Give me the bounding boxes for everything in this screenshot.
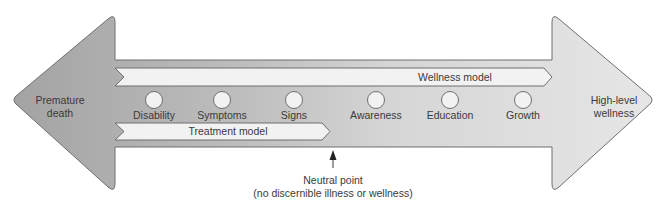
stage-label: Signs <box>281 109 307 121</box>
premature-death-label-line2: death <box>47 107 73 119</box>
arrow-up-head-icon <box>330 150 337 160</box>
stage-circle-icon <box>442 92 459 109</box>
treatment-model-label: Treatment model <box>189 125 268 137</box>
wellness-model-label: Wellness model <box>418 71 492 83</box>
stage-label: Education <box>427 109 474 121</box>
continuum-diagram: Wellness model Treatment model Disabilit… <box>0 0 666 212</box>
stage-label: Symptoms <box>197 109 247 121</box>
stage-circle-icon <box>286 92 303 109</box>
stage-label: Awareness <box>350 109 402 121</box>
neutral-point-marker <box>330 150 337 168</box>
stage-circle-icon <box>146 92 163 109</box>
neutral-point-description: (no discernible illness or wellness) <box>253 187 412 199</box>
stage-circle-icon <box>214 92 231 109</box>
stage-label: Growth <box>506 109 540 121</box>
neutral-point-label: Neutral point <box>303 174 363 186</box>
high-level-wellness-label-line1: High-level <box>591 94 638 106</box>
stage-circle-icon <box>515 92 532 109</box>
premature-death-label-line1: Premature <box>35 94 84 106</box>
stage-label: Disability <box>133 109 176 121</box>
stage-circle-icon <box>368 92 385 109</box>
high-level-wellness-label-line2: wellness <box>593 107 634 119</box>
